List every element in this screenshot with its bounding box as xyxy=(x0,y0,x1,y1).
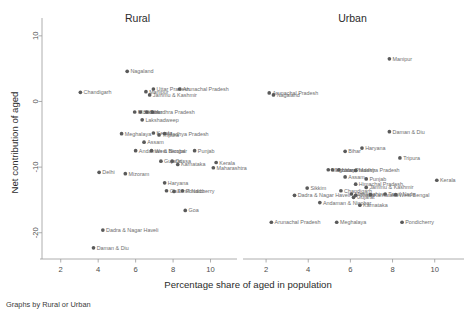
data-point-label: Chandigarh xyxy=(84,89,112,95)
data-point: Pondicherry xyxy=(181,188,215,194)
data-point-marker xyxy=(120,132,124,136)
data-point: Delhi xyxy=(97,169,114,175)
data-point-marker xyxy=(388,57,392,61)
data-point-marker xyxy=(293,193,297,197)
data-point: Haryana xyxy=(360,145,385,151)
data-point: Daman & Diu xyxy=(92,245,129,251)
data-point-marker xyxy=(163,181,167,185)
data-point-marker xyxy=(159,159,163,163)
data-point-label: Jammu & Kashmir xyxy=(153,92,197,98)
data-point-marker xyxy=(269,220,273,224)
data-point: Tripura xyxy=(398,155,420,161)
panel-title-urban: Urban xyxy=(338,12,367,24)
y-tick-label: 10 xyxy=(32,32,41,40)
data-point: Meghalaya xyxy=(335,219,366,225)
x-tick-label: 4 xyxy=(306,265,310,274)
data-point-label: Assam xyxy=(348,174,365,180)
x-tick-label: 10 xyxy=(206,265,214,274)
data-point-marker xyxy=(172,190,176,194)
data-point-label: Daman & Diu xyxy=(97,245,129,251)
data-point: Dadra & Nagar Haveli xyxy=(101,227,158,233)
x-tick-label: 8 xyxy=(171,265,175,274)
data-point-label: Bihar xyxy=(348,148,361,154)
data-point-marker xyxy=(331,168,335,172)
data-point-marker xyxy=(133,110,137,114)
x-tick-label: 10 xyxy=(430,265,438,274)
data-point-label: Arunachal Pradesh xyxy=(275,219,321,225)
data-point-marker xyxy=(272,93,276,97)
data-point-label: Meghalaya xyxy=(340,219,366,225)
data-point-marker xyxy=(144,90,148,94)
x-tick-label: 6 xyxy=(348,265,352,274)
data-point: Kerala xyxy=(435,177,456,183)
data-point: Andhra Pradesh xyxy=(151,109,195,115)
data-point-marker xyxy=(148,93,152,97)
data-point-marker xyxy=(181,189,185,193)
data-point-label: Madhya Pradesh xyxy=(359,167,400,173)
data-point-label: Pondicherry xyxy=(186,188,215,194)
data-point: Karnataka xyxy=(358,202,388,208)
data-point-marker xyxy=(138,110,142,114)
data-point-label: Manipur xyxy=(393,56,413,62)
data-point-label: Punjab xyxy=(198,148,215,154)
data-point-marker xyxy=(125,69,129,73)
data-point-label: Haryana xyxy=(168,180,188,186)
data-point-label: Assam xyxy=(147,139,164,145)
data-point-marker xyxy=(211,166,215,170)
data-point: West Bengal xyxy=(394,192,430,198)
x-tick-label: 4 xyxy=(96,265,100,274)
data-point-marker xyxy=(134,149,138,153)
data-point-marker xyxy=(145,110,149,114)
data-point-marker xyxy=(318,201,322,205)
data-point-label: Jammu & Kashmir xyxy=(369,184,413,190)
data-point-marker xyxy=(388,130,392,134)
data-point-marker xyxy=(97,171,101,175)
data-point-label: Andhra Pradesh xyxy=(156,109,195,115)
x-tick-label: 8 xyxy=(390,265,394,274)
data-point-marker xyxy=(157,133,161,137)
data-point-marker xyxy=(123,172,127,176)
data-point-marker xyxy=(152,87,156,91)
data-point-marker xyxy=(152,131,156,135)
chart-canvas: 100-10-20Net contribution of aged246810R… xyxy=(0,0,465,318)
data-point-marker xyxy=(151,110,155,114)
data-point-marker xyxy=(92,246,96,250)
data-point-label: Dadra & Nagar Haveli xyxy=(298,192,350,198)
data-point-label: Karnataka xyxy=(363,202,388,208)
data-point-marker xyxy=(400,220,404,224)
data-point-label: Sikkim xyxy=(310,185,326,191)
x-tick-label: 2 xyxy=(59,265,63,274)
data-point-marker xyxy=(343,150,347,154)
data-point-label: Nagaland xyxy=(130,68,153,74)
data-point-marker xyxy=(142,140,146,144)
y-tick-label: -10 xyxy=(32,162,41,173)
data-point-label: West Bengal xyxy=(155,148,185,154)
data-point-label: Daman & Diu xyxy=(393,129,425,135)
data-point-marker xyxy=(163,132,167,136)
data-point: Manipur xyxy=(388,56,413,62)
data-point: Dadra & Nagar Haveli xyxy=(293,192,350,198)
data-point: Maharashtra xyxy=(211,165,246,171)
data-point: Nagaland xyxy=(125,68,153,74)
data-point-marker xyxy=(335,220,339,224)
data-point-label: Pondicherry xyxy=(405,219,434,225)
data-point-label: West Bengal xyxy=(399,192,429,198)
data-point: Assam xyxy=(343,174,365,180)
data-point-marker xyxy=(337,168,341,172)
data-point-marker xyxy=(176,163,180,167)
data-point-marker xyxy=(305,186,309,190)
data-point-label: Delhi xyxy=(102,169,114,175)
data-point-label: Karnataka xyxy=(181,161,206,167)
x-tick-label: 2 xyxy=(264,265,268,274)
data-point-label: Tripura xyxy=(403,155,420,161)
data-point-marker xyxy=(398,156,402,160)
data-point-marker xyxy=(193,149,197,153)
data-point-label: Kerala xyxy=(440,177,456,183)
data-point-marker xyxy=(165,189,169,193)
data-point: Nagaland xyxy=(272,92,300,98)
data-point-marker xyxy=(101,228,105,232)
scatter-chart-figure: 100-10-20Net contribution of aged246810R… xyxy=(0,0,465,318)
y-tick-label: -20 xyxy=(32,227,41,238)
data-point: Punjab xyxy=(193,148,215,154)
figure-note: Graphs by Rural or Urban xyxy=(6,300,91,309)
